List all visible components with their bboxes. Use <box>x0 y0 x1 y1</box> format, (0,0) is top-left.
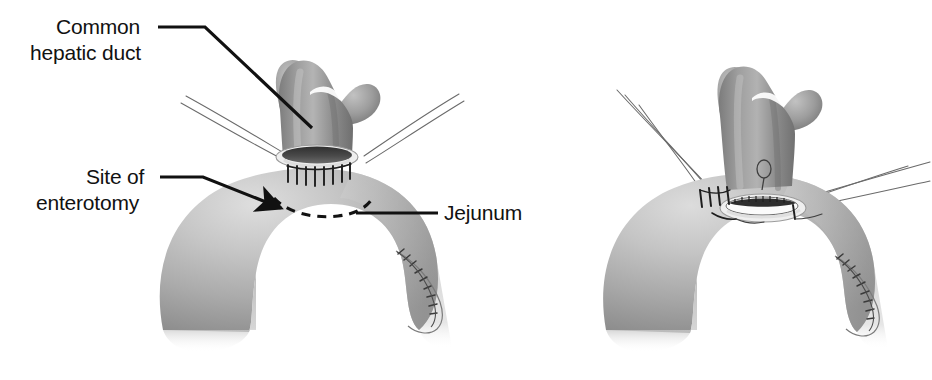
panel-left: Common hepatic duct Site of enterotomy J… <box>30 15 522 352</box>
stay-suture-threads-left <box>181 96 289 162</box>
panel-right <box>603 67 930 352</box>
common-hepatic-duct-right <box>717 67 822 190</box>
label-site-of-enterotomy-line1: Site of <box>86 165 144 188</box>
stay-suture-threads-upper-left-r <box>617 90 709 196</box>
duct-lumen <box>282 147 352 164</box>
label-site-of-enterotomy-line2: enterotomy <box>36 191 140 214</box>
label-common-hepatic-duct-line1: Common <box>56 15 140 38</box>
figure-container: Common hepatic duct Site of enterotomy J… <box>0 0 932 380</box>
label-jejunum: Jejunum <box>444 201 522 224</box>
surgical-illustration: Common hepatic duct Site of enterotomy J… <box>0 0 932 380</box>
label-common-hepatic-duct-line2: hepatic duct <box>30 41 141 64</box>
